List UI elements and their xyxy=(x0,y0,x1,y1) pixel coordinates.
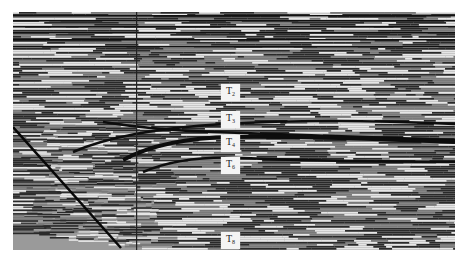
horizon-label-t2: T2 xyxy=(221,84,240,101)
seismic-image xyxy=(13,12,455,250)
horizon-label-t4: T4 xyxy=(221,135,240,152)
horizon-label-subscript: 4 xyxy=(232,142,235,148)
horizon-label-t6: T6 xyxy=(221,157,240,174)
horizon-label-t8: T8 xyxy=(221,232,240,249)
horizon-label-t3: T3 xyxy=(221,111,240,128)
seismic-section xyxy=(13,12,455,250)
horizon-label-subscript: 2 xyxy=(232,91,235,97)
horizon-label-subscript: 3 xyxy=(232,118,235,124)
horizon-label-subscript: 6 xyxy=(232,164,235,170)
horizon-label-subscript: 8 xyxy=(232,239,235,245)
